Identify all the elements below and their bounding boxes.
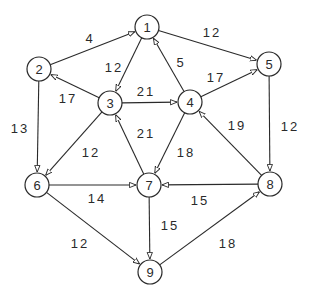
weight-labels-layer: 4121251721171312211819121415151218 [11, 25, 299, 251]
node-6: 6 [25, 173, 49, 197]
edge-3-to-4 [122, 102, 177, 103]
node-2: 2 [27, 57, 51, 81]
node-label: 6 [33, 178, 40, 193]
edge-weight-label: 12 [82, 145, 100, 160]
graph-diagram: 4121251721171312211819121415151218 12345… [0, 0, 311, 298]
node-label: 1 [143, 20, 150, 35]
node-label: 5 [265, 57, 272, 72]
node-label: 8 [266, 177, 273, 192]
edge-weight-label: 15 [161, 218, 179, 233]
node-8: 8 [258, 172, 282, 196]
edge-weight-label: 21 [137, 84, 155, 99]
edge-weight-label: 17 [59, 91, 77, 106]
arrow-icon [269, 76, 270, 171]
edge-weight-label: 12 [203, 25, 221, 40]
edge-weight-label: 18 [177, 145, 195, 160]
edges-layer [37, 30, 270, 264]
edge-weight-label: 14 [88, 191, 106, 206]
node-label: 3 [106, 96, 113, 111]
node-5: 5 [257, 52, 281, 76]
arrow-icon [149, 197, 150, 259]
arrow-icon [37, 81, 39, 172]
node-label: 2 [35, 62, 42, 77]
edge-weight-label: 17 [207, 70, 225, 85]
edge-weight-label: 12 [71, 236, 89, 251]
edge-weight-label: 13 [11, 121, 29, 136]
nodes-layer: 123456789 [25, 15, 282, 284]
graph-svg: 4121251721171312211819121415151218 12345… [0, 0, 311, 298]
node-label: 4 [186, 95, 193, 110]
edge-5-to-8 [269, 76, 270, 171]
edge-weight-label: 18 [219, 236, 237, 251]
edge-7-to-9 [149, 197, 150, 259]
node-label: 9 [146, 265, 153, 280]
node-7: 7 [137, 173, 161, 197]
edge-weight-label: 4 [85, 31, 94, 46]
node-4: 4 [178, 90, 202, 114]
edge-4-to-7 [155, 113, 185, 174]
edge-weight-label: 12 [105, 60, 123, 75]
edge-weight-label: 21 [137, 126, 155, 141]
edge-weight-label: 12 [281, 119, 299, 134]
node-3: 3 [98, 91, 122, 115]
arrow-icon [162, 184, 258, 185]
edge-weight-label: 5 [176, 55, 185, 70]
edge-2-to-6 [37, 81, 39, 172]
edge-weight-label: 15 [191, 193, 209, 208]
node-9: 9 [138, 260, 162, 284]
edge-8-to-7 [162, 184, 258, 185]
edge-weight-label: 19 [228, 118, 246, 133]
node-1: 1 [135, 15, 159, 39]
arrow-icon [122, 102, 177, 103]
edge-7-to-3 [116, 115, 144, 174]
arrow-icon [155, 113, 185, 174]
node-label: 7 [145, 178, 152, 193]
arrow-icon [116, 115, 144, 174]
